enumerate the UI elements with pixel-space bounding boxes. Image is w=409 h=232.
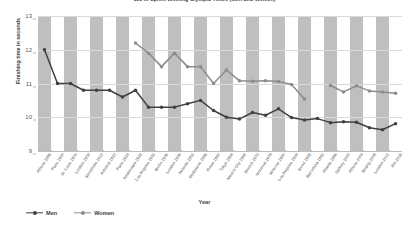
y-axis-tick: 13: [4, 16, 32, 22]
x-axis-tickmark: [272, 150, 273, 152]
x-axis-tickmark: [363, 150, 364, 152]
data-point-men: [95, 89, 99, 93]
data-point-women: [160, 65, 164, 69]
x-axis-tickmark: [155, 150, 156, 152]
x-axis-tick-label: Athens 1896: [35, 152, 52, 174]
data-point-women: [251, 79, 255, 83]
data-point-women: [355, 84, 359, 88]
series-line-women: [331, 86, 396, 94]
data-point-men: [199, 99, 203, 103]
x-axis-tickmark: [181, 150, 182, 152]
data-point-men: [277, 107, 281, 111]
x-axis-tickmark: [259, 150, 260, 152]
x-axis-tick-labels: Athens 1896Paris 1900St. Louis 1904Londo…: [38, 152, 402, 202]
data-point-men: [186, 102, 190, 106]
data-point-women: [303, 97, 307, 101]
data-point-men: [329, 121, 333, 125]
data-point-men: [368, 126, 372, 129]
data-point-men: [225, 116, 229, 120]
data-point-men: [303, 118, 307, 122]
x-axis-tickmark: [233, 150, 234, 152]
data-point-women: [329, 84, 333, 88]
x-axis-tickmark: [142, 150, 143, 152]
data-point-men: [69, 82, 73, 86]
data-point-men: [134, 89, 138, 93]
x-axis-tickmark: [38, 150, 39, 152]
legend-item-women[interactable]: Women: [74, 210, 114, 216]
x-axis-tick-label: Rio 2016: [389, 152, 402, 168]
series-lines: [38, 16, 402, 151]
data-point-women: [186, 65, 190, 69]
x-axis-title: Year: [0, 199, 409, 205]
data-point-women: [173, 51, 177, 55]
y-axis-tick: 11: [4, 84, 32, 90]
series-line-women: [136, 43, 305, 99]
data-point-women: [134, 41, 138, 45]
data-point-men: [381, 128, 385, 132]
chart-legend: MenWomen: [26, 210, 114, 216]
data-point-men: [290, 116, 294, 120]
olympic-sprint-times-chart: 100 m Sprint Winning Olympic Times (Men …: [0, 0, 409, 232]
x-axis-tickmark: [246, 150, 247, 152]
data-point-men: [394, 122, 398, 126]
x-axis-tickmark: [51, 150, 52, 152]
x-axis-tickmark: [116, 150, 117, 152]
data-point-women: [212, 82, 216, 86]
data-point-men: [316, 117, 320, 121]
data-point-men: [173, 105, 177, 109]
x-axis-tickmark: [324, 150, 325, 152]
data-point-women: [394, 92, 398, 96]
legend-item-men[interactable]: Men: [26, 210, 57, 216]
data-point-men: [82, 89, 86, 93]
data-point-women: [381, 90, 385, 94]
data-point-men: [56, 82, 60, 86]
data-point-men: [160, 105, 164, 109]
x-axis-tickmark: [337, 150, 338, 152]
data-point-women: [290, 83, 294, 87]
data-point-men: [147, 105, 151, 109]
data-point-women: [342, 90, 346, 94]
y-axis-tick: 10: [4, 117, 32, 123]
legend-label: Men: [46, 210, 57, 216]
x-axis-tickmark: [129, 150, 130, 152]
x-axis-tickmark: [311, 150, 312, 152]
y-axis-tick: 12: [4, 50, 32, 56]
data-point-men: [251, 111, 255, 115]
data-point-women: [277, 80, 281, 84]
data-point-men: [212, 109, 216, 113]
chart-title: 100 m Sprint Winning Olympic Times (Men …: [0, 0, 409, 2]
legend-swatch-icon: [26, 210, 43, 216]
legend-swatch-icon: [74, 210, 91, 216]
data-point-men: [355, 121, 359, 125]
x-axis-tickmark: [376, 150, 377, 152]
data-point-men: [238, 117, 242, 121]
data-point-women: [368, 89, 372, 93]
y-axis-tick: 9: [4, 151, 32, 157]
data-point-men: [121, 95, 125, 99]
x-axis-tickmark: [298, 150, 299, 152]
data-point-women: [264, 79, 268, 83]
x-axis-tickmark: [220, 150, 221, 152]
data-point-men: [43, 48, 47, 52]
x-axis-tickmark: [207, 150, 208, 152]
data-point-men: [264, 113, 268, 117]
data-point-women: [199, 65, 203, 69]
x-axis-tickmark: [389, 150, 390, 152]
x-axis-tickmark: [168, 150, 169, 152]
legend-label: Women: [94, 210, 114, 216]
x-axis-tickmark: [77, 150, 78, 152]
plot-area: [38, 16, 402, 151]
x-axis-tickmark: [285, 150, 286, 152]
x-axis-tickmark: [90, 150, 91, 152]
data-point-women: [238, 79, 242, 83]
x-axis-tickmark: [350, 150, 351, 152]
data-point-women: [225, 68, 229, 72]
data-point-men: [108, 89, 112, 93]
x-axis-tickmark: [194, 150, 195, 152]
data-point-men: [342, 120, 346, 124]
x-axis-tickmark: [103, 150, 104, 152]
x-axis-tickmark: [64, 150, 65, 152]
data-point-women: [147, 51, 151, 55]
